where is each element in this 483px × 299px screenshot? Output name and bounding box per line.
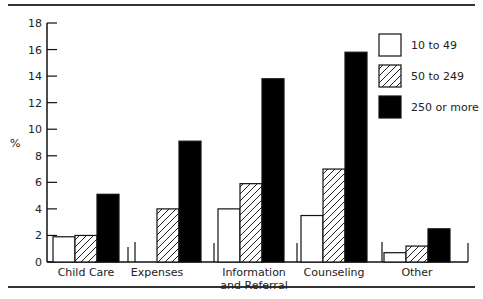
bar	[53, 237, 75, 262]
y-tick-label: 12	[28, 97, 42, 110]
legend-label: 50 to 249	[411, 70, 464, 83]
category-label: Expenses	[131, 266, 184, 279]
bar	[240, 184, 262, 262]
bar	[428, 229, 450, 262]
legend-label: 250 or more	[411, 101, 479, 114]
bar	[75, 235, 97, 262]
y-tick-label: 2	[35, 229, 42, 242]
category-labels: Child CareExpensesInformationand Referra…	[58, 266, 433, 292]
y-tick-label: 8	[35, 150, 42, 163]
category-label: Counseling	[304, 266, 365, 279]
bar	[218, 209, 240, 262]
y-axis-label: %	[10, 137, 20, 150]
bar	[179, 141, 201, 262]
category-label: and Referral	[220, 279, 287, 292]
legend-swatch	[379, 65, 401, 87]
legend-swatch	[379, 34, 401, 56]
legend: 10 to 4950 to 249250 or more	[379, 34, 479, 118]
bar	[301, 216, 323, 262]
bar	[97, 194, 119, 262]
y-tick-label: 0	[35, 256, 42, 269]
bar	[345, 52, 367, 262]
category-label: Other	[401, 266, 433, 279]
legend-swatch	[379, 96, 401, 118]
legend-label: 10 to 49	[411, 39, 457, 52]
bar	[262, 79, 284, 262]
bar-chart: 024681012141618 Child CareExpensesInform…	[0, 0, 483, 299]
y-tick-label: 14	[28, 70, 42, 83]
y-tick-label: 10	[28, 123, 42, 136]
y-tick-label: 4	[35, 203, 42, 216]
bar	[323, 169, 345, 262]
y-tick-label: 16	[28, 44, 42, 57]
bar	[157, 209, 179, 262]
y-tick-label: 6	[35, 176, 42, 189]
y-tick-label: 18	[28, 17, 42, 30]
bar	[406, 246, 428, 262]
category-label: Information	[222, 266, 286, 279]
category-label: Child Care	[58, 266, 115, 279]
bar	[384, 253, 406, 262]
